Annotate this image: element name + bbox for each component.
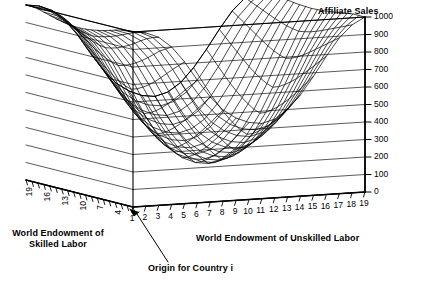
x-tick-label: 17 xyxy=(334,200,343,210)
surface-skirt xyxy=(26,0,258,96)
x-tick-label: 12 xyxy=(269,204,278,214)
surface-mesh xyxy=(26,0,365,163)
y-tick-label: 19 xyxy=(24,187,34,196)
x-tick-label: 8 xyxy=(220,207,225,217)
x-tick-label: 14 xyxy=(295,202,304,212)
x-tick-label: 16 xyxy=(321,201,330,211)
origin-leader-line xyxy=(130,209,168,262)
y-tick-label: 4 xyxy=(113,210,123,215)
z-tick-label: 800 xyxy=(374,46,388,56)
chart-title: Affiliate Sales xyxy=(318,6,379,16)
x-tick-label: 1 xyxy=(130,213,135,223)
x-tick-label: 15 xyxy=(308,201,317,211)
y-tick-label: 10 xyxy=(78,201,88,210)
x-tick-label: 13 xyxy=(282,203,291,213)
y-tick-label: 13 xyxy=(60,196,70,205)
x-tick-label: 11 xyxy=(256,205,265,215)
z-tick-label: 300 xyxy=(374,134,388,144)
x-tick-label: 18 xyxy=(346,199,355,209)
x-tick-label: 2 xyxy=(143,212,148,222)
z-tick-label: 900 xyxy=(374,29,388,39)
x-tick-label: 7 xyxy=(207,208,212,218)
z-tick-label: 100 xyxy=(374,169,388,179)
origin-annotation-label: Origin for Country i xyxy=(148,263,233,273)
z-tick-label: 700 xyxy=(374,64,388,74)
z-tick-label: 600 xyxy=(374,81,388,91)
x-axis-title: World Endowment of Unskilled Labor xyxy=(196,233,359,243)
y-tick-label: 16 xyxy=(42,192,52,201)
plot-canvas xyxy=(0,0,422,296)
z-tick-label: 0 xyxy=(374,186,379,196)
z-tick-label: 200 xyxy=(374,151,388,161)
x-tick-label: 9 xyxy=(233,206,238,216)
x-tick-label: 6 xyxy=(194,209,199,219)
y-tick-label: 7 xyxy=(95,205,105,210)
z-tick-label: 500 xyxy=(374,99,388,109)
y-axis-title: World Endowment of Skilled Labor xyxy=(6,228,110,250)
x-tick-label: 4 xyxy=(168,211,173,221)
z-tick-label: 1000 xyxy=(374,11,393,21)
x-tick-label: 19 xyxy=(359,198,368,208)
x-tick-label: 10 xyxy=(243,206,252,216)
x-tick-label: 3 xyxy=(155,211,160,221)
x-tick-label: 5 xyxy=(181,210,186,220)
surface-plot-figure: Affiliate Sales World Endowment of Unski… xyxy=(0,0,422,296)
z-tick-label: 400 xyxy=(374,116,388,126)
tick-marks xyxy=(26,17,371,212)
